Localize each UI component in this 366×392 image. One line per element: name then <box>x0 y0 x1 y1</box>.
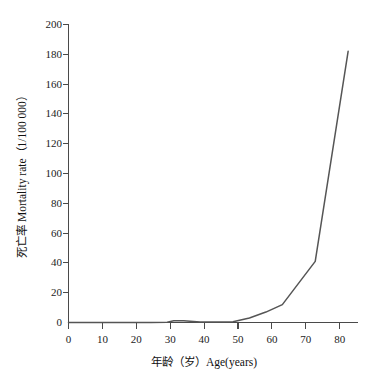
x-tick-label: 80 <box>334 333 346 345</box>
y-tick-label: 60 <box>51 227 63 239</box>
x-tick-label: 50 <box>233 333 245 345</box>
y-tick-label: 180 <box>46 48 63 60</box>
x-tick-label: 70 <box>300 333 312 345</box>
y-tick-label: 40 <box>51 256 63 268</box>
y-tick-label: 0 <box>57 316 63 328</box>
x-tick-label: 40 <box>199 333 211 345</box>
chart-plot-area: 200 180 160 140 120 100 80 60 40 20 0 <box>0 0 366 392</box>
mortality-rate-line-chart: 200 180 160 140 120 100 80 60 40 20 0 <box>0 0 366 392</box>
mortality-rate-series-line <box>69 51 349 322</box>
y-axis-title: 死亡率 Mortality rate（1/100 000） <box>15 90 29 258</box>
x-axis-title: 年龄（岁）Age(years) <box>151 355 257 369</box>
y-tick-label: 140 <box>46 107 63 119</box>
x-tick-label: 60 <box>266 333 278 345</box>
x-axis-tick-marks <box>69 323 340 329</box>
y-axis-tick-labels: 200 180 160 140 120 100 80 60 40 20 0 <box>46 18 63 328</box>
y-tick-label: 200 <box>46 18 63 30</box>
y-tick-label: 80 <box>51 197 63 209</box>
y-tick-label: 160 <box>46 78 63 90</box>
x-tick-label: 20 <box>131 333 143 345</box>
x-tick-label: 0 <box>66 333 72 345</box>
y-tick-label: 120 <box>46 137 63 149</box>
x-tick-label: 10 <box>97 333 109 345</box>
y-tick-label: 100 <box>46 167 63 179</box>
x-axis-tick-labels: 0 10 20 30 40 50 60 70 80 <box>66 333 346 345</box>
y-axis-tick-marks <box>63 25 69 293</box>
y-tick-label: 20 <box>51 286 63 298</box>
x-tick-label: 30 <box>165 333 177 345</box>
